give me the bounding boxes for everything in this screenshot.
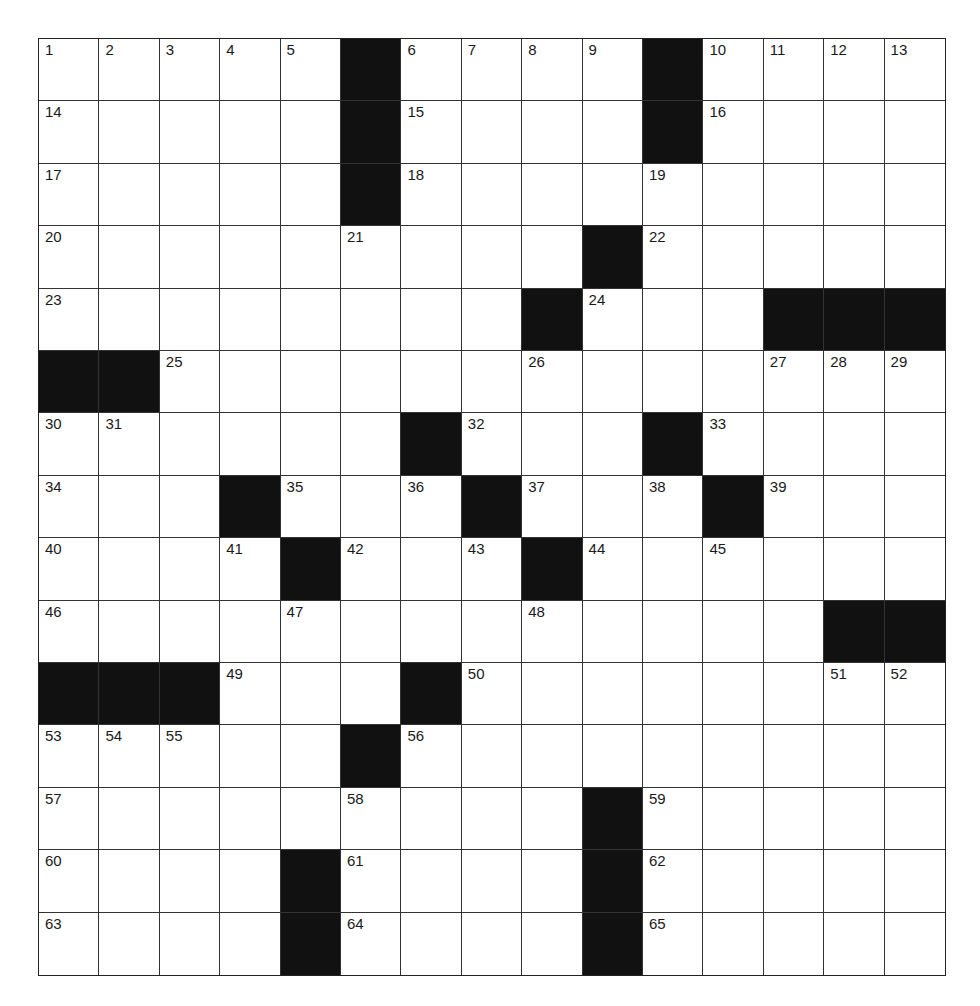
grid-cell[interactable]: 60: [39, 850, 99, 912]
grid-cell[interactable]: 39: [764, 476, 824, 538]
grid-cell[interactable]: 33: [703, 413, 763, 475]
grid-cell[interactable]: [764, 101, 824, 163]
grid-cell[interactable]: 28: [824, 351, 884, 413]
grid-cell[interactable]: [99, 164, 159, 226]
grid-cell[interactable]: [764, 226, 824, 288]
grid-cell[interactable]: 47: [281, 601, 341, 663]
grid-cell[interactable]: [703, 850, 763, 912]
grid-cell[interactable]: 45: [703, 538, 763, 600]
grid-cell[interactable]: 53: [39, 725, 99, 787]
grid-cell[interactable]: [220, 101, 280, 163]
grid-cell[interactable]: [824, 788, 884, 850]
grid-cell[interactable]: [764, 850, 824, 912]
grid-cell[interactable]: [885, 850, 945, 912]
grid-cell[interactable]: [341, 413, 401, 475]
grid-cell[interactable]: [885, 725, 945, 787]
grid-cell[interactable]: [401, 788, 461, 850]
grid-cell[interactable]: [160, 788, 220, 850]
grid-cell[interactable]: [220, 725, 280, 787]
grid-cell[interactable]: [160, 289, 220, 351]
grid-cell[interactable]: [160, 601, 220, 663]
grid-cell[interactable]: [583, 164, 643, 226]
grid-cell[interactable]: 11: [764, 39, 824, 101]
grid-cell[interactable]: [703, 164, 763, 226]
grid-cell[interactable]: [643, 538, 703, 600]
grid-cell[interactable]: 63: [39, 913, 99, 975]
grid-cell[interactable]: 58: [341, 788, 401, 850]
grid-cell[interactable]: [703, 663, 763, 725]
grid-cell[interactable]: 31: [99, 413, 159, 475]
grid-cell[interactable]: [99, 476, 159, 538]
grid-cell[interactable]: 12: [824, 39, 884, 101]
grid-cell[interactable]: [220, 351, 280, 413]
grid-cell[interactable]: [643, 351, 703, 413]
grid-cell[interactable]: [764, 538, 824, 600]
grid-cell[interactable]: 25: [160, 351, 220, 413]
grid-cell[interactable]: [643, 663, 703, 725]
grid-cell[interactable]: 57: [39, 788, 99, 850]
grid-cell[interactable]: [522, 913, 582, 975]
grid-cell[interactable]: 46: [39, 601, 99, 663]
grid-cell[interactable]: 9: [583, 39, 643, 101]
grid-cell[interactable]: [885, 226, 945, 288]
grid-cell[interactable]: 36: [401, 476, 461, 538]
grid-cell[interactable]: 41: [220, 538, 280, 600]
grid-cell[interactable]: [764, 913, 824, 975]
grid-cell[interactable]: [99, 601, 159, 663]
grid-cell[interactable]: [220, 788, 280, 850]
grid-cell[interactable]: [341, 476, 401, 538]
grid-cell[interactable]: [281, 164, 341, 226]
grid-cell[interactable]: [401, 913, 461, 975]
grid-cell[interactable]: 26: [522, 351, 582, 413]
grid-cell[interactable]: [643, 601, 703, 663]
grid-cell[interactable]: 30: [39, 413, 99, 475]
grid-cell[interactable]: [281, 351, 341, 413]
grid-cell[interactable]: 18: [401, 164, 461, 226]
grid-cell[interactable]: [703, 788, 763, 850]
grid-cell[interactable]: [703, 601, 763, 663]
grid-cell[interactable]: 15: [401, 101, 461, 163]
grid-cell[interactable]: [824, 164, 884, 226]
grid-cell[interactable]: [522, 788, 582, 850]
grid-cell[interactable]: [160, 476, 220, 538]
grid-cell[interactable]: [281, 725, 341, 787]
grid-cell[interactable]: 64: [341, 913, 401, 975]
grid-cell[interactable]: [281, 663, 341, 725]
grid-cell[interactable]: [885, 476, 945, 538]
grid-cell[interactable]: 1: [39, 39, 99, 101]
grid-cell[interactable]: [462, 913, 522, 975]
grid-cell[interactable]: [583, 101, 643, 163]
grid-cell[interactable]: 44: [583, 538, 643, 600]
grid-cell[interactable]: [885, 913, 945, 975]
grid-cell[interactable]: 34: [39, 476, 99, 538]
grid-cell[interactable]: 56: [401, 725, 461, 787]
grid-cell[interactable]: [281, 289, 341, 351]
grid-cell[interactable]: [99, 850, 159, 912]
grid-cell[interactable]: [462, 101, 522, 163]
grid-cell[interactable]: [824, 226, 884, 288]
grid-cell[interactable]: 24: [583, 289, 643, 351]
grid-cell[interactable]: [341, 351, 401, 413]
grid-cell[interactable]: [764, 663, 824, 725]
grid-cell[interactable]: [522, 413, 582, 475]
grid-cell[interactable]: 40: [39, 538, 99, 600]
grid-cell[interactable]: [824, 538, 884, 600]
grid-cell[interactable]: [281, 226, 341, 288]
grid-cell[interactable]: [643, 289, 703, 351]
grid-cell[interactable]: [281, 413, 341, 475]
grid-cell[interactable]: [703, 725, 763, 787]
grid-cell[interactable]: 13: [885, 39, 945, 101]
grid-cell[interactable]: 42: [341, 538, 401, 600]
grid-cell[interactable]: [462, 850, 522, 912]
grid-cell[interactable]: [401, 289, 461, 351]
grid-cell[interactable]: 8: [522, 39, 582, 101]
grid-cell[interactable]: 32: [462, 413, 522, 475]
grid-cell[interactable]: [885, 413, 945, 475]
grid-cell[interactable]: [824, 476, 884, 538]
grid-cell[interactable]: [522, 226, 582, 288]
grid-cell[interactable]: [522, 663, 582, 725]
grid-cell[interactable]: [99, 226, 159, 288]
grid-cell[interactable]: [462, 164, 522, 226]
grid-cell[interactable]: 43: [462, 538, 522, 600]
grid-cell[interactable]: [462, 601, 522, 663]
